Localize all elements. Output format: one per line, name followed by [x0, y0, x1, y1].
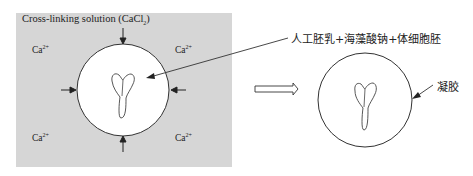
bead-in-solution — [77, 44, 169, 136]
diagram-stage: Cross-linking solution (CaCl2) Ca2+ Ca2+… — [0, 0, 473, 176]
gel-label: 凝胶 — [437, 78, 459, 94]
solution-label: Cross-linking solution (CaCl2) — [22, 13, 150, 26]
diagram-svg — [0, 0, 473, 176]
gel-bead — [318, 53, 412, 147]
calcium-ion-label: Ca2+ — [32, 132, 49, 143]
calcium-ion-label: Ca2+ — [32, 44, 49, 55]
calcium-ion-label: Ca2+ — [175, 132, 192, 143]
process-arrow-icon — [255, 83, 298, 95]
calcium-ion-label: Ca2+ — [175, 44, 192, 55]
mixture-label: 人工胚乳+海藻酸钠+体细胞胚 — [291, 30, 441, 46]
gel-pointer-arrowhead — [412, 92, 421, 99]
